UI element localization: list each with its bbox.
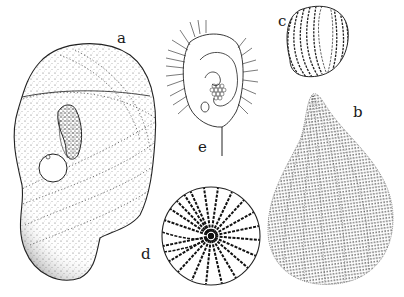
panel-b-illustration: [260, 88, 400, 288]
panel-label-b: b: [353, 105, 363, 120]
panel-d-illustration: [162, 187, 260, 285]
panel-label-e: e: [198, 140, 207, 155]
panel-c-illustration: [287, 6, 348, 77]
panel-e-illustration: [166, 20, 258, 156]
panel-label-c: c: [278, 14, 286, 29]
panel-label-d: d: [141, 247, 151, 262]
panel-label-a: a: [117, 31, 126, 46]
